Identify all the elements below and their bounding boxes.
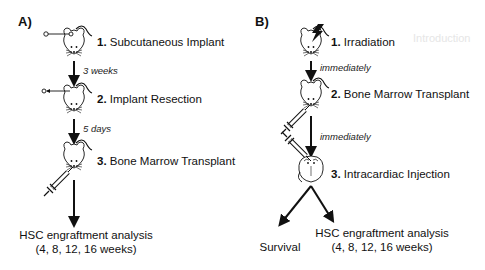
panel-b-mouse-2 xyxy=(281,78,329,134)
outcome-title: Survival xyxy=(250,240,310,254)
step-number: 3. xyxy=(331,168,341,180)
step-number: 1. xyxy=(97,36,107,48)
step-number: 2. xyxy=(331,88,341,100)
step-number: 1. xyxy=(331,36,341,48)
step-text: Bone Marrow Transplant xyxy=(110,155,235,167)
outcome-timepoints: (4, 8, 12, 16 weeks) xyxy=(14,242,158,256)
panel-a-interval-2: 5 days xyxy=(83,123,111,134)
panel-a-step-3: 3. Bone Marrow Transplant xyxy=(97,155,235,167)
step-text: Irradiation xyxy=(344,36,395,48)
panel-a-label: A) xyxy=(18,14,32,29)
panel-a-mouse-3 xyxy=(44,140,92,196)
step-text: Intracardiac Injection xyxy=(344,168,450,180)
arrow-b-survival xyxy=(282,186,311,222)
step-number: 3. xyxy=(97,155,107,167)
panel-b-mouse-3-supine xyxy=(282,132,323,182)
panel-a-interval-1: 3 weeks xyxy=(83,65,118,76)
panel-b-step-1: 1. Irradiation xyxy=(331,36,395,48)
panel-b-step-3: 3. Intracardiac Injection xyxy=(331,168,450,180)
outcome-timepoints: (4, 8, 12, 16 weeks) xyxy=(310,240,454,254)
panel-a-outcome: HSC engraftment analysis (4, 8, 12, 16 w… xyxy=(14,228,158,256)
panel-a-mouse-2 xyxy=(42,83,92,113)
step-text: Subcutaneous Implant xyxy=(110,36,224,48)
step-number: 2. xyxy=(97,93,107,105)
step-text: Implant Resection xyxy=(110,93,202,105)
panel-a-step-1: 1. Subcutaneous Implant xyxy=(97,36,224,48)
panel-b-interval-2: immediately xyxy=(320,131,371,142)
panel-b-label: B) xyxy=(255,14,269,29)
step-text: Bone Marrow Transplant xyxy=(344,88,469,100)
panel-a-step-2: 2. Implant Resection xyxy=(97,93,202,105)
panel-b-outcome-engraftment: HSC engraftment analysis (4, 8, 12, 16 w… xyxy=(310,226,454,254)
panel-b-interval-1: immediately xyxy=(320,62,371,73)
panel-b-outcome-survival: Survival xyxy=(250,240,310,254)
panel-a-mouse-1 xyxy=(44,26,92,56)
outcome-title: HSC engraftment analysis xyxy=(14,228,158,242)
outcome-title: HSC engraftment analysis xyxy=(310,226,454,240)
panel-b-mouse-1 xyxy=(301,24,329,56)
panel-b-step-2: 2. Bone Marrow Transplant xyxy=(331,88,469,100)
arrow-b-engraftment xyxy=(311,186,331,218)
